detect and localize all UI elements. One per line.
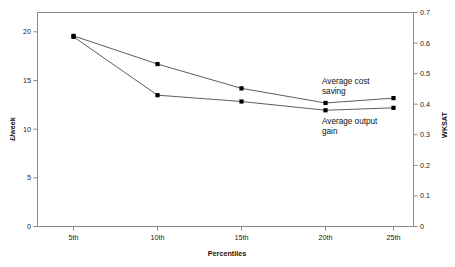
- data-point: [391, 106, 395, 110]
- annot-output-gain-line2: gain: [322, 127, 338, 136]
- chart-svg: 0 5 10 15 20 £/week 0 0.1 0.2 0.3 0.4 0.…: [0, 0, 455, 267]
- annot-output-gain: Average output gain: [322, 117, 378, 136]
- bottom-axis: 5th 10th 15th 20th 25th: [69, 227, 401, 243]
- chart-figure: 0 5 10 15 20 £/week 0 0.1 0.2 0.3 0.4 0.…: [0, 0, 455, 267]
- right-tick-label-0.3: 0.3: [420, 130, 430, 139]
- annot-cost-saving-line1: Average cost: [322, 77, 370, 86]
- data-point: [239, 86, 243, 90]
- right-tick-label-0.7: 0.7: [420, 8, 430, 17]
- right-tick-label-0.2: 0.2: [420, 161, 430, 170]
- data-point: [155, 62, 159, 66]
- annot-output-gain-line1: Average output: [322, 117, 378, 126]
- series-line-output-gain: [74, 37, 394, 110]
- left-axis: 0 5 10 15 20: [23, 27, 38, 231]
- left-tick-label-0: 0: [27, 222, 31, 231]
- annot-cost-saving: Average cost saving: [322, 77, 370, 96]
- data-point: [323, 108, 327, 112]
- annot-cost-saving-line2: saving: [322, 87, 346, 96]
- right-axis-title: WKSAT: [440, 111, 449, 137]
- left-tick-label-5: 5: [27, 173, 31, 182]
- left-tick-label-15: 15: [23, 76, 31, 85]
- data-point: [239, 99, 243, 103]
- right-tick-label-0.4: 0.4: [420, 100, 430, 109]
- left-tick-label-10: 10: [23, 125, 31, 134]
- right-tick-label-0.1: 0.1: [420, 191, 430, 200]
- right-tick-label-0: 0: [420, 222, 424, 231]
- data-point: [71, 35, 75, 39]
- x-tick-label-10th: 10th: [151, 233, 165, 242]
- right-axis: 0 0.1 0.2 0.3 0.4 0.5 0.6 0.7: [414, 8, 431, 231]
- x-tick-label-25th: 25th: [387, 233, 401, 242]
- data-point: [391, 96, 395, 100]
- data-point: [155, 93, 159, 97]
- x-tick-label-20th: 20th: [319, 233, 333, 242]
- right-tick-label-0.5: 0.5: [420, 69, 430, 78]
- data-point: [323, 101, 327, 105]
- left-tick-label-20: 20: [23, 27, 31, 36]
- right-tick-label-0.6: 0.6: [420, 39, 430, 48]
- x-tick-label-5th: 5th: [69, 233, 79, 242]
- x-tick-label-15th: 15th: [235, 233, 249, 242]
- series-average-output-gain: [71, 35, 395, 113]
- x-axis-title: Percentiles: [208, 249, 246, 258]
- left-axis-title: £/week: [8, 117, 17, 141]
